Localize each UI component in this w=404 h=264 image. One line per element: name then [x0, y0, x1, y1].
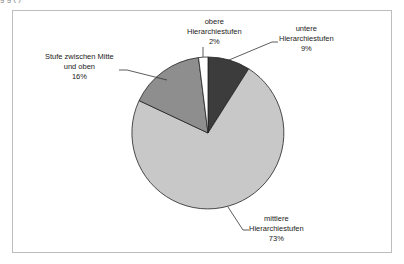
- label-mittlere: mittlere Hierarchiestufen 73%: [249, 214, 304, 244]
- label-line: Stufe zwischen Mitte: [45, 52, 114, 62]
- label-obere: obere Hierarchiestufen 2%: [187, 17, 242, 47]
- label-untere: untere Hierarchiestufen 9%: [279, 24, 334, 54]
- label-mitte-oben: Stufe zwischen Mitte und oben 16%: [45, 52, 114, 82]
- label-pct: 9%: [279, 44, 334, 54]
- label-line: mittlere: [249, 214, 304, 224]
- label-line: untere: [279, 24, 334, 34]
- label-pct: 16%: [45, 72, 114, 82]
- label-line: Hierarchiestufen: [249, 224, 304, 234]
- label-line: Hierarchiestufen: [279, 34, 334, 44]
- leader-mittlere: [228, 207, 249, 230]
- label-line: Hierarchiestufen: [187, 27, 242, 37]
- label-line: obere: [187, 17, 242, 27]
- label-line: und oben: [45, 62, 114, 72]
- label-pct: 73%: [249, 234, 304, 244]
- label-pct: 2%: [187, 37, 242, 47]
